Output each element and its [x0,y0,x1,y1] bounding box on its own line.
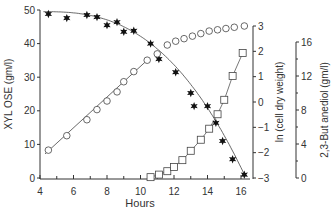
chart: 4681012141601020304050−3−2−101230481216 … [0,0,335,216]
cell-weight-point [131,68,138,75]
x-tick-label: 4 [37,186,43,197]
xylose-point [147,39,154,47]
ln-tick-label: 3 [258,21,264,32]
left-tick-label: 50 [24,5,36,16]
butanediol-tick-label: 0 [301,173,307,184]
cell-weight-point [198,30,205,37]
xylose-point [241,170,248,178]
x-tick-label: 10 [135,186,147,197]
left-tick-label: 10 [24,139,36,150]
butanediol-tick-label: 16 [301,37,313,48]
x-tick-label: 12 [168,186,180,197]
cell-weight-point [189,33,196,40]
cell-weight-point [144,57,151,64]
ln-tick-label: 0 [258,97,264,108]
x-tick-label: 14 [202,186,214,197]
cell-weight-point [120,78,127,85]
cell-weight-point [45,147,52,154]
butanediol-point [164,168,171,175]
cell-weight-point [214,27,221,34]
xylose-point [219,137,226,145]
fit-curves [43,12,244,178]
xylose-point [187,89,194,97]
cell-weight-point [181,35,188,42]
cell-weight-point [172,38,179,45]
xylose-point [191,102,198,110]
cell-weight-point [164,42,171,49]
y-axis-label-left: XYL OSE (gm/l) [3,59,14,130]
left-tick-label: 20 [24,105,36,116]
butanediol-point [197,136,204,143]
y-axis-label-butanediol: 2,3-But anediol (gm/l) [319,62,330,158]
butanediol-point [239,50,246,57]
butanediol-point [221,96,228,103]
left-tick-label: 40 [24,38,36,49]
x-tick-label: 8 [104,186,110,197]
cell-weight-point [94,106,101,113]
xylose-point [204,102,211,110]
ln-tick-label: −1 [258,122,270,133]
butanediol-point [171,163,178,170]
data-points [45,10,248,181]
xylose-point [103,21,110,29]
x-tick-label: 16 [235,186,247,197]
x-tick-label: 6 [71,186,77,197]
ln-tick-label: −3 [258,173,270,184]
butanediol-point [229,73,236,80]
butanediol-point [214,111,221,118]
xylose-point [63,14,70,22]
left-tick-label: 30 [24,72,36,83]
left-tick-label: 0 [29,173,35,184]
cell-weight-point [206,28,213,35]
butanediol-tick-label: 4 [301,139,307,150]
cell-weight-point [84,116,91,123]
butanediol-point [187,147,194,154]
cell-weight-point [154,51,161,58]
cell-weight-point [64,132,71,139]
xylose-point [45,10,52,18]
butanediol-point [147,174,154,181]
butanediol-point [179,157,186,164]
ln-tick-label: 2 [258,46,264,57]
cell-weight-point [231,24,238,31]
butanediol-point [206,125,213,132]
cell-weight-point [223,25,230,32]
xylose-point [93,13,100,21]
ln-tick-label: 1 [258,71,264,82]
xylose-point [120,28,127,36]
butanediol-tick-label: 12 [301,71,313,82]
butanediol-tick-label: 8 [301,105,307,116]
cell-weight-point [104,98,111,105]
butanediol-point [155,171,162,178]
y-axis-label-ln-cell-weight: ln (cell dry weight) [274,62,285,143]
cell-weight-point [114,89,121,96]
cell-weight-point [241,23,248,30]
x-axis-label: Hours [125,197,155,209]
ln-tick-label: −2 [258,147,270,158]
